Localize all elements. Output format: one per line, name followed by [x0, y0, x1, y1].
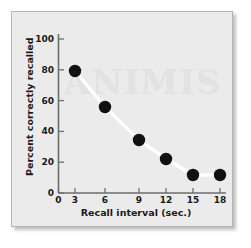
x-tick-label: 3	[65, 195, 85, 205]
data-point	[214, 169, 226, 181]
figure-container: ANIMIS	[0, 0, 251, 248]
x-tick-label: 12	[156, 195, 176, 205]
y-tick-marks	[59, 39, 65, 193]
data-point	[69, 65, 81, 77]
x-tick-label: 18	[210, 195, 230, 205]
y-axis-title: Percent correctly recalled	[24, 37, 35, 176]
x-tick-label: 9	[129, 195, 149, 205]
data-point	[133, 134, 145, 146]
data-point	[187, 169, 199, 181]
data-point	[99, 101, 111, 113]
x-axis-title: Recall interval (sec.)	[58, 207, 214, 218]
x-tick-label: 15	[183, 195, 203, 205]
x-tick-label: 6	[95, 195, 115, 205]
data-line	[75, 71, 220, 175]
data-point	[160, 153, 172, 165]
